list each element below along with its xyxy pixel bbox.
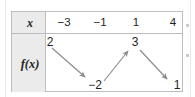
x-value-3: 4 (170, 17, 176, 29)
function-value-table: x −3 −1 1 4 f(x) 2 −2 3 1 (11, 11, 183, 92)
page-rule-right (190, 0, 191, 97)
page-rule-left (5, 0, 6, 97)
x-value-2: 1 (133, 17, 139, 29)
table-body-row: f(x) 2 −2 3 1 (12, 34, 182, 92)
table-header-row: x −3 −1 1 4 (12, 12, 182, 34)
row-label-fx: f(x) (21, 58, 40, 71)
header-label-x: x (27, 17, 33, 29)
figure-screenshot: x −3 −1 1 4 f(x) 2 −2 3 1 (0, 0, 195, 97)
page-tick-upper (186, 24, 189, 27)
x-value-1: −1 (93, 17, 106, 29)
fx-value-3: 1 (174, 79, 181, 91)
fx-value-1: −2 (88, 79, 102, 91)
fx-value-0: 2 (47, 36, 54, 48)
x-value-0: −3 (57, 17, 70, 29)
page-tick-lower (186, 54, 189, 57)
fx-value-2: 3 (132, 36, 139, 48)
